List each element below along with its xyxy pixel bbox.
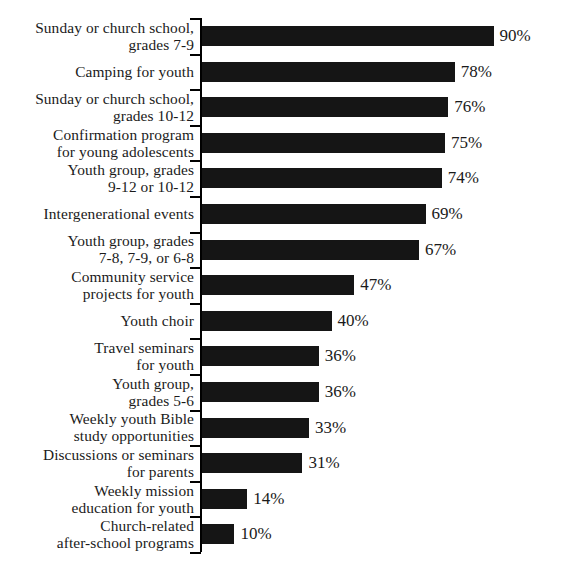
category-label-line: Church-related: [100, 517, 194, 534]
bar-and-value: 47%: [202, 275, 391, 295]
bar-value-label: 14%: [253, 489, 284, 509]
category-label-line: Sunday or church school,: [35, 19, 194, 36]
category-label-line: Travel seminars: [94, 339, 194, 356]
bar-value-label: 40%: [338, 311, 369, 331]
bar: [202, 524, 234, 544]
bar-value-label: 75%: [451, 133, 482, 153]
bar-row: Camping for youth78%: [0, 54, 566, 90]
category-label-line: 7-8, 7-9, or 6-8: [99, 249, 194, 266]
category-label: Weekly youth Biblestudy opportunities: [2, 410, 194, 446]
bar-row: Sunday or church school,grades 7-990%: [0, 18, 566, 54]
category-label: Youth choir: [2, 303, 194, 339]
bar-row: Weekly youth Biblestudy opportunities33%: [0, 410, 566, 446]
bar-and-value: 14%: [202, 489, 285, 509]
category-label: Church-relatedafter-school programs: [2, 516, 194, 552]
bar-and-value: 74%: [202, 168, 479, 188]
bar-row: Community serviceprojects for youth47%: [0, 267, 566, 303]
category-label-line: Community service: [71, 268, 194, 285]
bar-value-label: 67%: [425, 240, 456, 260]
bar-row: Intergenerational events69%: [0, 196, 566, 232]
bar-value-label: 36%: [325, 382, 356, 402]
bar-and-value: 36%: [202, 346, 356, 366]
bar-value-label: 31%: [308, 453, 339, 473]
category-label-line: grades 5-6: [128, 392, 194, 409]
category-label-line: after-school programs: [57, 534, 194, 551]
bar: [202, 133, 445, 153]
bar: [202, 26, 494, 46]
bar: [202, 453, 302, 473]
category-label-line: Youth group, grades: [68, 161, 194, 178]
category-label-line: Youth group,: [112, 375, 194, 392]
bar-row: Discussions or seminarsfor parents31%: [0, 445, 566, 481]
bar-value-label: 33%: [315, 418, 346, 438]
bar-row: Youth choir40%: [0, 303, 566, 339]
bar: [202, 97, 448, 117]
bar: [202, 204, 426, 224]
category-label: Travel seminarsfor youth: [2, 338, 194, 374]
category-label: Camping for youth: [2, 54, 194, 90]
bar-row: Youth group, grades7-8, 7-9, or 6-867%: [0, 232, 566, 268]
bar: [202, 489, 247, 509]
bar-row: Travel seminarsfor youth36%: [0, 338, 566, 374]
bar-value-label: 10%: [240, 524, 271, 544]
bar: [202, 311, 332, 331]
bar-and-value: 31%: [202, 453, 340, 473]
category-label-line: grades 7-9: [128, 36, 194, 53]
category-label: Sunday or church school,grades 7-9: [2, 18, 194, 54]
bar-and-value: 69%: [202, 204, 463, 224]
category-label-line: education for youth: [72, 499, 194, 516]
bar-value-label: 74%: [448, 168, 479, 188]
bar-and-value: 10%: [202, 524, 272, 544]
axis-tick: [190, 552, 201, 554]
category-label-line: 9-12 or 10-12: [108, 178, 194, 195]
category-label: Youth group, grades9-12 or 10-12: [2, 160, 194, 196]
bar-row: Weekly missioneducation for youth14%: [0, 481, 566, 517]
bar: [202, 346, 319, 366]
bar: [202, 240, 419, 260]
category-label: Weekly missioneducation for youth: [2, 481, 194, 517]
category-label: Sunday or church school,grades 10-12: [2, 89, 194, 125]
category-label-line: study opportunities: [74, 427, 194, 444]
bar-value-label: 69%: [432, 204, 463, 224]
bar-and-value: 75%: [202, 133, 482, 153]
category-label: Discussions or seminarsfor parents: [2, 445, 194, 481]
category-label: Intergenerational events: [2, 196, 194, 232]
bar-and-value: 90%: [202, 26, 531, 46]
category-label-line: Youth group, grades: [68, 232, 194, 249]
bar-value-label: 78%: [461, 62, 492, 82]
bar-value-label: 76%: [454, 97, 485, 117]
category-label: Youth group, grades7-8, 7-9, or 6-8: [2, 232, 194, 268]
category-label-line: Confirmation program: [53, 126, 194, 143]
category-label: Youth group,grades 5-6: [2, 374, 194, 410]
category-label: Confirmation programfor young adolescent…: [2, 125, 194, 161]
category-label-line: Discussions or seminars: [43, 446, 194, 463]
category-label-line: projects for youth: [83, 285, 194, 302]
bar-chart: Sunday or church school,grades 7-990%Cam…: [0, 0, 566, 586]
category-label-line: Weekly mission: [94, 482, 194, 499]
category-label-line: for parents: [127, 463, 194, 480]
bar: [202, 62, 455, 82]
bar-row: Sunday or church school,grades 10-1276%: [0, 89, 566, 125]
category-label: Community serviceprojects for youth: [2, 267, 194, 303]
bar-and-value: 78%: [202, 62, 492, 82]
bar-value-label: 36%: [325, 346, 356, 366]
category-label-line: Intergenerational events: [44, 205, 194, 222]
bar-row: Church-relatedafter-school programs10%: [0, 516, 566, 552]
bar-and-value: 76%: [202, 97, 485, 117]
category-label-line: for young adolescents: [57, 143, 194, 160]
bar-value-label: 47%: [360, 275, 391, 295]
bar: [202, 382, 319, 402]
category-label-line: grades 10-12: [113, 107, 194, 124]
bar-and-value: 36%: [202, 382, 356, 402]
category-label-line: for youth: [136, 356, 194, 373]
category-label-line: Weekly youth Bible: [69, 410, 194, 427]
bar-value-label: 90%: [500, 26, 531, 46]
bar-row: Youth group, grades9-12 or 10-1274%: [0, 160, 566, 196]
bar: [202, 168, 442, 188]
bar-row: Youth group,grades 5-636%: [0, 374, 566, 410]
bar: [202, 418, 309, 438]
bar-and-value: 40%: [202, 311, 369, 331]
category-label-line: Youth choir: [120, 312, 194, 329]
category-label-line: Camping for youth: [75, 63, 194, 80]
bar: [202, 275, 354, 295]
